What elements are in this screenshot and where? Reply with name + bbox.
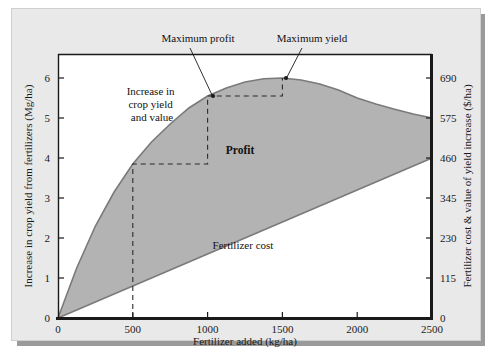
- y2-tick-label: 115: [440, 272, 457, 284]
- y-tick-label: 5: [45, 112, 51, 124]
- y-tick-label: 0: [45, 312, 51, 324]
- x-tick-label: 2500: [421, 323, 444, 335]
- increase-label-line-1: Increase in: [127, 85, 175, 97]
- y-tick-label: 4: [45, 152, 51, 164]
- y-tick-label: 2: [45, 232, 51, 244]
- y2-tick-label: 575: [440, 112, 457, 124]
- y2-tick-label: 230: [440, 232, 457, 244]
- maximum-profit-label: Maximum profit: [161, 32, 234, 44]
- x-axis-title: Fertilizer added (kg/ha): [193, 335, 297, 348]
- increase-in-crop-yield-label: Increase in crop yield and value: [127, 85, 178, 123]
- y-tick-label: 3: [45, 192, 51, 204]
- fertilizer-cost-label: Fertilizer cost: [213, 239, 274, 251]
- y2-tick-label: 0: [440, 312, 446, 324]
- maximum-yield-label: Maximum yield: [277, 32, 348, 44]
- maximum-profit-marker: [211, 94, 215, 98]
- y2-tick-label: 460: [440, 152, 457, 164]
- increase-label-line-2: crop yield: [128, 98, 173, 110]
- x-tick-label: 2000: [346, 323, 369, 335]
- y-tick-label: 6: [45, 72, 51, 84]
- y-axis-title: Increase in crop yield from fertilizers …: [22, 84, 35, 287]
- x-tick-label: 0: [55, 323, 61, 335]
- maximum-yield-marker: [284, 76, 288, 80]
- profit-label: Profit: [226, 144, 255, 156]
- x-tick-label: 500: [125, 323, 142, 335]
- x-tick-label: 1000: [197, 323, 220, 335]
- y2-tick-label: 690: [440, 72, 457, 84]
- y2-tick-label: 345: [440, 192, 457, 204]
- x-tick-label: 1500: [271, 323, 294, 335]
- y2-axis-title: Fertilizer cost & value of yield increas…: [461, 84, 474, 287]
- y-tick-label: 1: [45, 272, 51, 284]
- increase-label-line-3: and value: [131, 111, 174, 123]
- fertilizer-profit-chart: 05001000150020002500 0123456 01152303454…: [0, 0, 495, 360]
